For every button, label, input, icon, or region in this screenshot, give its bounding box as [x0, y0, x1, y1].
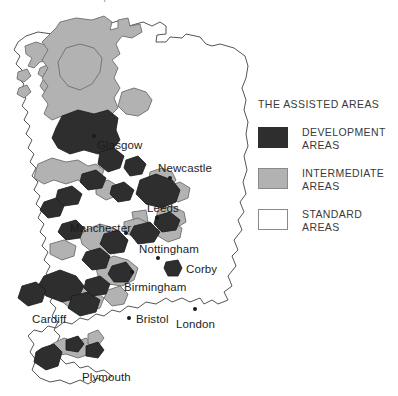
assisted-areas-map-page: Assisted areas map of Great Britain [0, 0, 398, 396]
corby-development-area [164, 260, 182, 276]
city-dot-nottingham [156, 256, 160, 260]
city-label-plymouth: Plymouth [82, 371, 131, 383]
city-label-bristol: Bristol [136, 313, 169, 325]
city-label-london: London [176, 318, 215, 330]
city-label-manchester: Manchester [70, 222, 131, 234]
city-label-newcastle: Newcastle [158, 162, 212, 174]
legend-label-standard-line1: STANDARD [302, 208, 362, 220]
legend-label-intermediate-line2: AREAS [302, 180, 384, 193]
legend-title: THE ASSISTED AREAS [258, 98, 396, 110]
city-label-corby: Corby [186, 263, 217, 275]
city-dot-glasgow [92, 134, 96, 138]
legend-label-development-line1: DEVELOPMENT [302, 126, 386, 138]
legend-item-development: DEVELOPMENT AREAS [258, 126, 396, 152]
legend-label-intermediate-line1: INTERMEDIATE [302, 167, 384, 179]
city-dot-newcastle [168, 176, 172, 180]
legend-label-intermediate: INTERMEDIATE AREAS [302, 167, 384, 193]
legend-label-development: DEVELOPMENT AREAS [302, 126, 386, 152]
city-label-nottingham: Nottingham [139, 243, 199, 255]
legend-label-standard-line2: AREAS [302, 221, 362, 234]
legend-label-standard: STANDARD AREAS [302, 208, 362, 234]
city-dot-leeds [155, 216, 159, 220]
map-legend: THE ASSISTED AREAS DEVELOPMENT AREAS INT… [258, 98, 396, 249]
page-title: Assisted areas map of Great Britain [0, 0, 398, 3]
development-swatch [258, 127, 288, 148]
city-label-birmingham: Birmingham [124, 281, 186, 293]
city-label-cardiff: Cardiff [32, 313, 66, 325]
standard-swatch [258, 209, 288, 230]
city-label-leeds: Leeds [147, 202, 179, 214]
legend-label-development-line2: AREAS [302, 139, 386, 152]
city-dot-london [193, 307, 197, 311]
intermediate-swatch [258, 168, 288, 189]
page-title-strip: Assisted areas map of Great Britain [0, 0, 398, 3]
legend-item-standard: STANDARD AREAS [258, 208, 396, 234]
city-label-glasgow: Glasgow [97, 139, 142, 151]
city-dot-bristol [127, 316, 131, 320]
great-britain-map [0, 4, 260, 396]
legend-item-intermediate: INTERMEDIATE AREAS [258, 167, 396, 193]
city-dot-birmingham [130, 270, 134, 274]
